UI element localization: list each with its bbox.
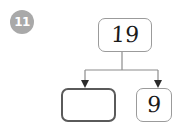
part-box-left-answer-blank[interactable] [61, 88, 116, 122]
worksheet-number-bond-canvas: 11 19 9 [0, 0, 190, 136]
whole-box: 19 [98, 18, 152, 52]
part-box-right: 9 [136, 88, 172, 122]
question-number-badge: 11 [10, 10, 34, 34]
part-right-value: 9 [146, 94, 161, 116]
whole-value: 19 [110, 24, 139, 46]
